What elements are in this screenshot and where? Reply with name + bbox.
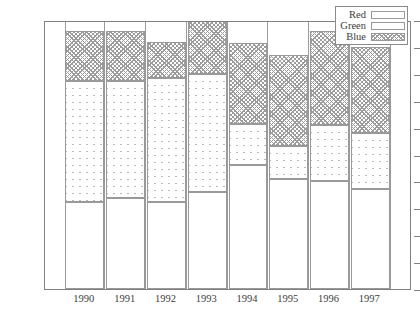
bar-segment-green[interactable] — [229, 124, 268, 166]
bar-segment-blue[interactable] — [65, 31, 104, 81]
category-separator — [349, 22, 350, 290]
bar-column[interactable] — [65, 21, 104, 289]
x-axis-tick-label: 1993 — [196, 293, 217, 305]
category-separator — [145, 22, 146, 290]
legend-item-swatch — [371, 11, 405, 19]
category-separator — [308, 22, 309, 290]
legend-item[interactable]: Red — [340, 9, 405, 20]
x-axis-tick-label: 1992 — [155, 293, 176, 305]
bar-column[interactable] — [351, 21, 390, 289]
legend-item[interactable]: Green — [340, 20, 405, 31]
category-separator — [227, 22, 228, 290]
x-axis-tick-label: 1991 — [114, 293, 135, 305]
bar-column[interactable] — [147, 21, 186, 289]
bar-segment-green[interactable] — [106, 81, 145, 198]
x-axis-tick-label: 1997 — [359, 293, 380, 305]
x-axis-tick-label: 1996 — [318, 293, 339, 305]
bar-segment-blue[interactable] — [147, 42, 186, 78]
legend: RedGreenBlue — [335, 6, 408, 45]
category-separator — [186, 22, 187, 290]
bar-segment-blue[interactable] — [106, 31, 145, 81]
bar-segment-blue[interactable] — [351, 47, 390, 133]
category-separator — [65, 22, 66, 290]
bar-segment-green[interactable] — [188, 74, 227, 192]
bar-segment-red[interactable] — [310, 181, 349, 289]
bar-segment-green[interactable] — [269, 146, 308, 178]
legend-item-swatch — [371, 33, 405, 41]
x-axis-tick-label: 1994 — [236, 293, 257, 305]
category-separator — [390, 22, 391, 290]
bar-column[interactable] — [269, 21, 308, 289]
bar-segment-red[interactable] — [147, 202, 186, 289]
bar-segment-red[interactable] — [351, 189, 390, 289]
x-axis-tick-label: 1990 — [73, 293, 94, 305]
plot-area — [44, 21, 411, 290]
bar-segment-green[interactable] — [310, 125, 349, 181]
legend-item-label: Blue — [346, 31, 371, 42]
bar-column[interactable] — [188, 21, 227, 289]
bar-segment-red[interactable] — [269, 179, 308, 289]
legend-item-label: Red — [349, 9, 371, 20]
legend-item-swatch — [371, 22, 405, 30]
bar-column[interactable] — [229, 21, 268, 289]
stacked-bar-chart: 102030405060708090100110 199019911992199… — [0, 0, 420, 320]
category-separator — [267, 22, 268, 290]
bar-column[interactable] — [310, 21, 349, 289]
bar-segment-blue[interactable] — [269, 55, 308, 146]
bar-segment-green[interactable] — [351, 133, 390, 189]
legend-item[interactable]: Blue — [340, 31, 405, 42]
bar-segment-green[interactable] — [147, 78, 186, 202]
bar-segment-red[interactable] — [65, 202, 104, 289]
category-separator — [104, 22, 105, 290]
bar-column[interactable] — [106, 21, 145, 289]
legend-item-label: Green — [340, 20, 371, 31]
bar-segment-green[interactable] — [65, 81, 104, 202]
bar-segment-red[interactable] — [106, 198, 145, 289]
x-axis-tick-label: 1995 — [277, 293, 298, 305]
bar-segment-blue[interactable] — [188, 21, 227, 74]
bar-segment-red[interactable] — [188, 192, 227, 289]
bar-segment-red[interactable] — [229, 165, 268, 289]
bar-segment-blue[interactable] — [229, 43, 268, 124]
